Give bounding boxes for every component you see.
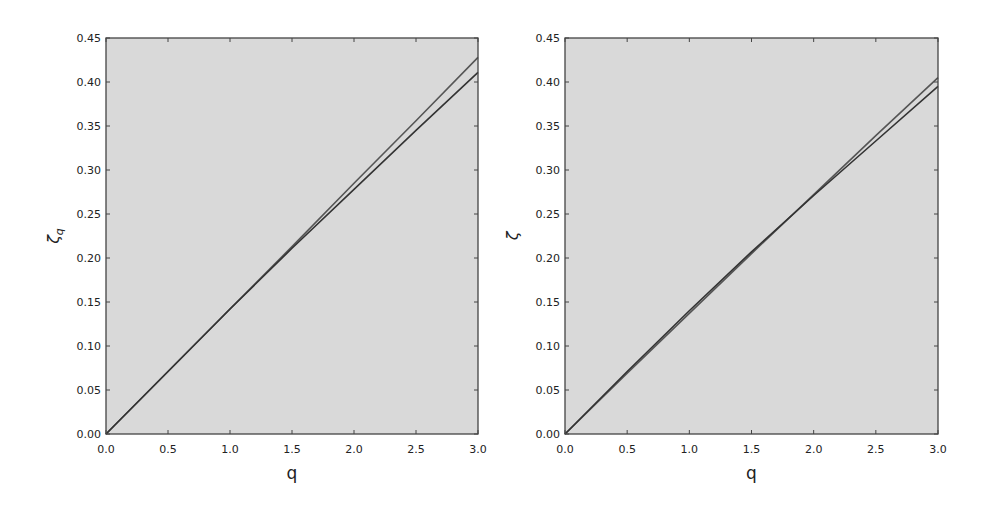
y-tick-label: 0.20 — [77, 252, 102, 265]
plot-area — [106, 38, 478, 434]
x-tick-label: 0.5 — [618, 443, 636, 456]
x-tick-label: 1.5 — [743, 443, 761, 456]
left-chart-svg: 0.00.51.01.52.02.53.00.000.050.100.150.2… — [0, 0, 493, 511]
x-tick-label: 2.0 — [805, 443, 823, 456]
x-tick-label: 2.5 — [407, 443, 425, 456]
y-tick-label: 0.00 — [536, 428, 561, 441]
x-tick-label: 2.5 — [867, 443, 885, 456]
y-tick-label: 0.45 — [77, 32, 102, 45]
y-tick-label: 0.00 — [77, 428, 102, 441]
y-axis-label: ζ — [503, 230, 522, 241]
y-tick-label: 0.10 — [536, 340, 561, 353]
x-axis-label: q — [287, 463, 298, 483]
x-tick-label: 0.0 — [97, 443, 115, 456]
y-tick-label: 0.35 — [77, 120, 102, 133]
y-tick-label: 0.45 — [536, 32, 561, 45]
x-tick-label: 1.5 — [283, 443, 301, 456]
right-chart: 0.00.51.01.52.02.53.00.000.050.100.150.2… — [493, 0, 987, 511]
y-tick-label: 0.30 — [536, 164, 561, 177]
right-chart-svg: 0.00.51.01.52.02.53.00.000.050.100.150.2… — [493, 0, 987, 511]
y-tick-label: 0.05 — [536, 384, 561, 397]
x-tick-label: 1.0 — [681, 443, 699, 456]
x-tick-label: 3.0 — [929, 443, 947, 456]
y-tick-label: 0.15 — [536, 296, 561, 309]
x-tick-label: 0.0 — [556, 443, 574, 456]
x-tick-label: 2.0 — [345, 443, 363, 456]
y-tick-label: 0.40 — [77, 76, 102, 89]
y-tick-label: 0.15 — [77, 296, 102, 309]
x-axis-label: q — [746, 463, 757, 483]
y-tick-label: 0.40 — [536, 76, 561, 89]
x-tick-label: 3.0 — [469, 443, 487, 456]
x-tick-label: 1.0 — [221, 443, 239, 456]
y-tick-label: 0.30 — [77, 164, 102, 177]
y-tick-label: 0.10 — [77, 340, 102, 353]
y-tick-label: 0.35 — [536, 120, 561, 133]
y-tick-label: 0.05 — [77, 384, 102, 397]
left-chart: 0.00.51.01.52.02.53.00.000.050.100.150.2… — [0, 0, 493, 511]
plot-area — [565, 38, 938, 434]
y-axis-label: ζq — [44, 228, 66, 245]
y-tick-label: 0.20 — [536, 252, 561, 265]
x-tick-label: 0.5 — [159, 443, 177, 456]
y-tick-label: 0.25 — [536, 208, 561, 221]
y-tick-label: 0.25 — [77, 208, 102, 221]
